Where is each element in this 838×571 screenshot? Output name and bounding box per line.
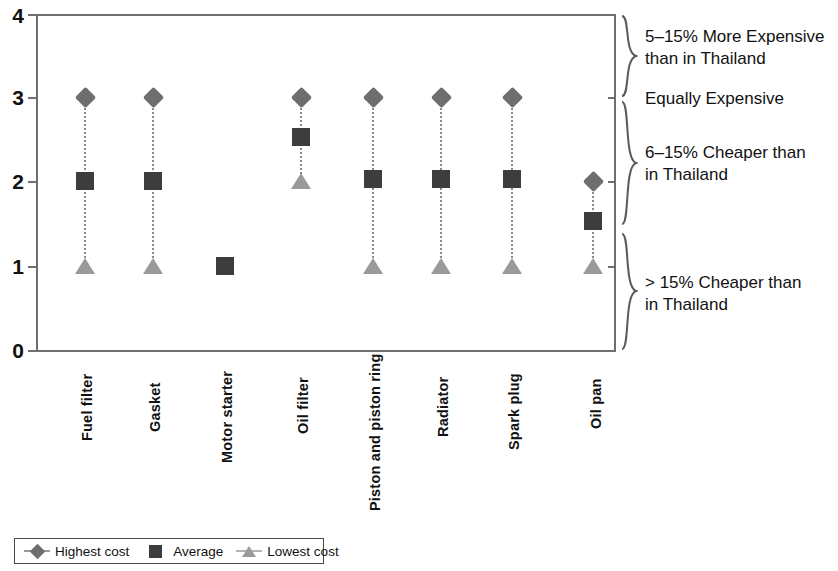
marker-lowest-oil-pan (583, 258, 603, 274)
diamond-marker-icon (24, 544, 50, 558)
marker-highest-piston-and-piston-ring (363, 87, 384, 108)
y-axis-tick-4 (28, 14, 36, 16)
square-marker-icon (142, 544, 168, 558)
right-axis-tick-2 (608, 181, 616, 183)
marker-average-spark-plug (503, 170, 521, 188)
y-tick-label-1: 1 (0, 256, 24, 277)
marker-highest-radiator (431, 87, 452, 108)
x-tick-label-fuel-filter: Fuel filter (79, 374, 95, 441)
marker-lowest-fuel-filter (75, 258, 95, 274)
marker-highest-oil-filter (291, 87, 312, 108)
y-axis-tick-2 (28, 181, 36, 183)
x-tick-label-oil-filter: Oil filter (295, 377, 311, 434)
annotation-more-expensive: 5–15% More Expensive than in Thailand (645, 26, 835, 70)
marker-highest-fuel-filter (75, 87, 96, 108)
marker-average-radiator (432, 170, 450, 188)
x-tick-label-spark-plug: Spark plug (506, 373, 522, 450)
legend-item-lowest-cost: Lowest cost (236, 544, 338, 559)
annotation-cheaper-6-15: 6–15% Cheaper than in Thailand (645, 142, 835, 186)
y-axis-tick-1 (28, 266, 36, 268)
marker-lowest-radiator (431, 258, 451, 274)
marker-average-fuel-filter (76, 172, 94, 190)
y-axis-tick-0 (28, 350, 36, 352)
y-tick-label-4: 4 (0, 5, 24, 26)
x-tick-label-piston-and-piston-ring: Piston and piston ring (367, 354, 383, 511)
annotation-equally-expensive: Equally Expensive (645, 88, 835, 110)
legend-label-average: Average (173, 544, 223, 559)
legend-label-lowest-cost: Lowest cost (267, 544, 338, 559)
x-tick-label-gasket: Gasket (147, 382, 163, 432)
right-axis-tick-3 (608, 97, 616, 99)
marker-average-motor-starter (216, 257, 234, 275)
y-axis-line (36, 14, 38, 352)
x-tick-label-radiator: Radiator (435, 377, 451, 437)
y-tick-label-3: 3 (0, 87, 24, 108)
legend-item-highest-cost: Highest cost (24, 544, 129, 559)
x-tick-label-motor-starter: Motor starter (219, 371, 235, 463)
legend-item-average: Average (142, 544, 223, 559)
x-tick-label-oil-pan: Oil pan (588, 378, 604, 429)
marker-lowest-spark-plug (502, 258, 522, 274)
x-axis-line (36, 350, 616, 352)
chart-legend: Highest cost Average Lowest cost (14, 538, 324, 564)
marker-highest-spark-plug (502, 87, 523, 108)
brace-more-expensive (620, 14, 638, 98)
triangle-marker-icon (236, 544, 262, 558)
brace-cheaper-6-15 (620, 100, 638, 226)
marker-highest-oil-pan (583, 171, 604, 192)
plot-right-border (614, 14, 616, 352)
plot-top-border (36, 14, 616, 16)
legend-label-highest-cost: Highest cost (55, 544, 129, 559)
marker-average-piston-and-piston-ring (364, 170, 382, 188)
y-tick-label-2: 2 (0, 171, 24, 192)
y-axis-tick-3 (28, 97, 36, 99)
marker-average-oil-pan (584, 212, 602, 230)
marker-lowest-gasket (143, 258, 163, 274)
annotation-cheaper-over-15: > 15% Cheaper than in Thailand (645, 272, 835, 316)
chart-container: 4 3 2 1 0 Fuel filter (0, 0, 838, 571)
marker-highest-gasket (143, 87, 164, 108)
marker-lowest-piston-and-piston-ring (363, 258, 383, 274)
marker-average-oil-filter (292, 128, 310, 146)
brace-cheaper-over-15 (620, 232, 638, 351)
marker-average-gasket (144, 172, 162, 190)
y-tick-label-0: 0 (0, 340, 24, 361)
right-axis-tick-1 (608, 266, 616, 268)
marker-lowest-oil-filter (291, 173, 311, 189)
